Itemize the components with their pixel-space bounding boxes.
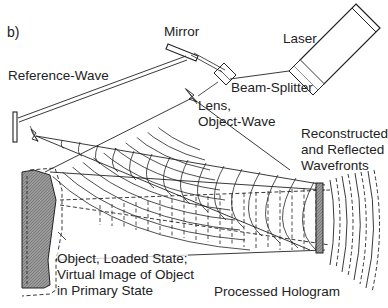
object-label-line1: Object, Loaded State; [57,251,188,266]
laser-label: Laser [283,31,317,46]
reference-beam-cone [36,136,325,250]
reflected-wavefronts [330,170,380,292]
object-label-line3: in Primary State [57,283,153,298]
processed-hologram-label: Processed Hologram [214,284,340,299]
object-wave-label: Object-Wave [198,114,276,129]
reference-wavefronts [61,140,316,250]
laser-beam [230,71,289,79]
reconstructed-label-line2: and Reflected [301,142,384,157]
reference-mirror [13,112,17,142]
mirror [166,44,198,61]
lens-label: Lens, [198,98,231,113]
beam-splitter-label: Beam-Splitter [231,80,313,95]
reference-wave-beam [18,56,187,122]
reconstructed-label-line3: Wavefronts [301,158,369,173]
object-scatter-beam [50,172,330,260]
reference-lens [30,126,38,142]
object-wave-cone [45,98,290,172]
reconstructed-wave-segments [100,187,316,250]
processed-hologram-plate [316,183,323,253]
panel-label: b) [7,25,19,40]
object-label-line2: Virtual Image of Object [57,267,194,282]
pointer-lines [58,232,66,240]
reconstructed-label-line1: Reconstructed [301,126,388,141]
reference-wave-label: Reference-Wave [8,68,109,83]
mirror-label: Mirror [164,24,199,39]
